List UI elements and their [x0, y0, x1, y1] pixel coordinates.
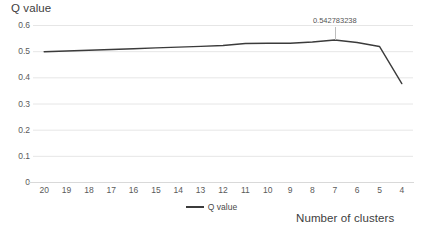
x-tick-label: 4: [399, 185, 404, 197]
x-tick-label: 7: [332, 185, 337, 197]
x-axis-line: [29, 182, 414, 183]
y-tick-label: 0.2: [4, 125, 30, 134]
series-lines: [44, 40, 402, 84]
x-tick-label: 10: [263, 185, 272, 197]
x-tick-label: 11: [241, 185, 250, 197]
data-point-label: 0.542783238: [313, 17, 357, 25]
x-tick-label: 20: [39, 185, 48, 197]
x-tick-label: 14: [174, 185, 183, 197]
x-tick-label: 19: [62, 185, 71, 197]
y-tick-label: 0.6: [4, 21, 30, 30]
data-label-leader-line: [335, 27, 336, 40]
y-tick-label: 0.1: [4, 152, 30, 161]
legend-line-icon: [186, 206, 204, 208]
x-tick-label: 8: [310, 185, 315, 197]
plot-area: [33, 25, 413, 182]
chart-container: Q value 00.10.20.30.40.50.6 201918171615…: [0, 0, 423, 234]
plot-svg: [33, 25, 413, 182]
y-tick-label: 0: [4, 178, 30, 187]
x-axis-title: Number of clusters: [296, 212, 394, 224]
x-tick-label: 16: [129, 185, 138, 197]
x-tick-label: 9: [288, 185, 293, 197]
legend-item[interactable]: Q value: [186, 203, 237, 212]
y-axis: 00.10.20.30.40.50.6: [0, 25, 30, 182]
legend-label: Q value: [208, 203, 237, 212]
data-line[interactable]: [44, 40, 402, 84]
x-tick-label: 17: [106, 185, 115, 197]
x-tick-label: 6: [355, 185, 360, 197]
x-tick-label: 18: [84, 185, 93, 197]
x-tick-label: 5: [377, 185, 382, 197]
y-tick-label: 0.5: [4, 47, 30, 56]
chart-title: Q value: [11, 2, 51, 14]
x-axis: 2019181716151413121110987654: [33, 185, 413, 199]
x-tick-label: 13: [196, 185, 205, 197]
legend: Q value: [0, 203, 423, 212]
x-tick-label: 15: [151, 185, 160, 197]
y-tick-label: 0.4: [4, 73, 30, 82]
x-tick-label: 12: [218, 185, 227, 197]
y-tick-label: 0.3: [4, 99, 30, 108]
